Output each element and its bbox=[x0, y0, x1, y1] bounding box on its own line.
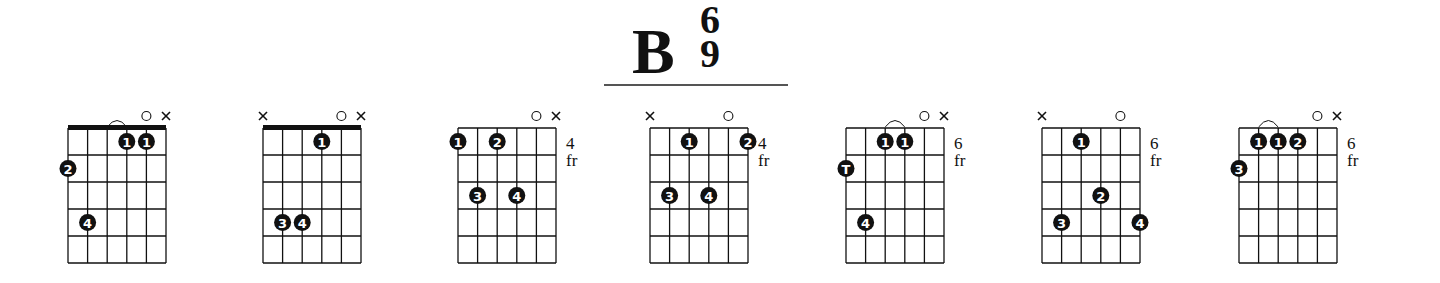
finger-dot: 2 bbox=[1289, 133, 1306, 150]
barre-arc bbox=[1259, 121, 1279, 128]
finger-dot: 3 bbox=[1231, 160, 1248, 177]
svg-text:2: 2 bbox=[1293, 135, 1302, 150]
svg-text:1: 1 bbox=[1254, 135, 1263, 150]
svg-text:3: 3 bbox=[1234, 162, 1243, 177]
svg-text:1: 1 bbox=[1274, 135, 1283, 150]
finger-dot: 1 bbox=[1270, 133, 1287, 150]
fret-position-label: 6 fr bbox=[1347, 135, 1358, 169]
open-string-icon bbox=[1313, 112, 1322, 121]
finger-dot: 1 bbox=[1250, 133, 1267, 150]
fretboard-grid: 1123 bbox=[0, 0, 1440, 283]
muted-string-icon bbox=[1333, 112, 1341, 120]
chord-diagram: 11236 fr bbox=[0, 0, 190, 283]
